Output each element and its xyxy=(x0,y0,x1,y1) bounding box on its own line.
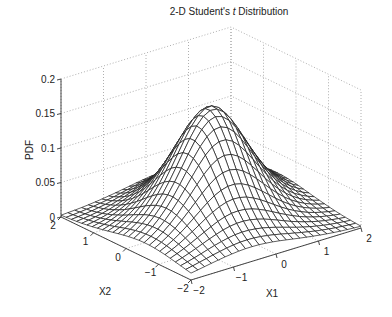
x2-tick-label: 0 xyxy=(115,252,121,263)
x2-tick-label: −1 xyxy=(145,267,157,278)
x2-tick-label: −2 xyxy=(177,283,189,294)
x1-tick xyxy=(234,267,235,271)
z-tick xyxy=(57,148,61,149)
x2-tick-label: 1 xyxy=(83,236,89,247)
x1-tick-label: 1 xyxy=(324,246,330,257)
x1-tick xyxy=(191,280,192,284)
z-tick xyxy=(57,114,61,115)
x1-tick-label: −2 xyxy=(193,285,205,296)
x1-tick xyxy=(361,228,362,232)
x1-tick-label: −1 xyxy=(236,272,248,283)
chart-title: 2-D Student's t Distribution xyxy=(170,6,289,17)
x1-tick xyxy=(276,254,277,258)
z-tick-label: 0.2 xyxy=(41,74,55,85)
x1-tick-label: 0 xyxy=(281,259,287,270)
mesh-surface xyxy=(61,106,361,273)
z-axis-label: PDF xyxy=(24,140,35,160)
grid-line xyxy=(61,27,361,90)
x1-tick xyxy=(319,241,320,245)
x2-axis-label: X2 xyxy=(99,286,112,297)
x1-axis-label: X1 xyxy=(266,288,279,299)
surface-plot: 00.050.10.150.2−2−1012−2−1012 2-D Studen… xyxy=(0,0,392,317)
z-tick xyxy=(57,183,61,184)
z-tick-label: 0.05 xyxy=(36,177,56,188)
x2-tick xyxy=(123,249,126,252)
x2-tick xyxy=(91,233,94,236)
z-tick xyxy=(57,79,61,80)
z-tick-label: 0.15 xyxy=(36,108,56,119)
x2-tick-label: 2 xyxy=(50,220,56,231)
figure: 00.050.10.150.2−2−1012−2−1012 2-D Studen… xyxy=(0,0,392,317)
z-tick-label: 0.1 xyxy=(41,143,55,154)
x1-tick-label: 2 xyxy=(366,233,372,244)
